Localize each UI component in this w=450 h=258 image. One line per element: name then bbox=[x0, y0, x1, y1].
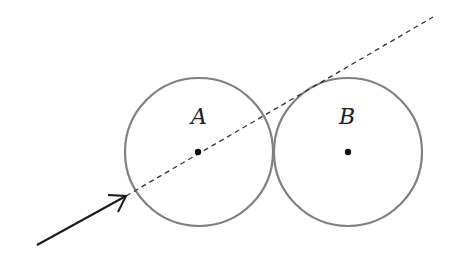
incident-arrow bbox=[37, 196, 126, 245]
center-dot-a bbox=[195, 149, 201, 155]
label-b: B bbox=[338, 104, 355, 129]
label-a: A bbox=[189, 104, 207, 129]
dashed-trajectory-line bbox=[126, 17, 433, 196]
center-dot-b bbox=[345, 149, 351, 155]
diagram-canvas: A B bbox=[0, 0, 450, 258]
